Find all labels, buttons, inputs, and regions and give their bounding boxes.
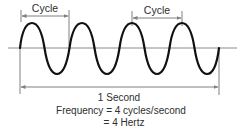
one-second-label: 1 Second	[98, 93, 140, 103]
cycle-1-label: Cycle	[32, 3, 58, 14]
frequency-equation-label: Frequency = 4 cycles/second	[56, 106, 186, 116]
frequency-diagram: Cycle Cycle 1 Second Frequency = 4 cycle…	[0, 0, 240, 138]
cycle-2-label: Cycle	[144, 5, 170, 16]
hertz-equation-label: = 4 Hertz	[104, 118, 145, 128]
